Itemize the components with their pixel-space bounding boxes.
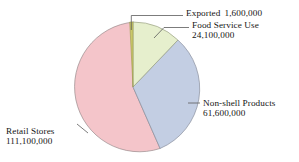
slice-label-exported-name: Exported: [186, 8, 220, 18]
slice-label-exported: Exported1,600,000: [186, 8, 262, 18]
slice-label-non-shell-value: 61,600,000: [203, 108, 276, 118]
slice-label-food-service-use: Food Service Use 24,100,000: [192, 20, 259, 41]
slice-label-food-service-name: Food Service Use: [192, 20, 259, 30]
slice-label-retail-name: Retail Stores: [6, 126, 55, 136]
slice-label-non-shell-name: Non-shell Products: [203, 98, 276, 108]
leader-line-retail-stores: [77, 124, 88, 133]
slice-label-food-service-value: 24,100,000: [192, 30, 259, 40]
slice-label-non-shell-products: Non-shell Products 61,600,000: [203, 98, 276, 119]
slice-label-exported-value: 1,600,000: [220, 8, 262, 18]
pie-chart-figure: Exported1,600,000 Food Service Use 24,10…: [0, 0, 299, 162]
slice-label-retail-stores: Retail Stores 111,100,000: [6, 126, 55, 147]
slice-label-retail-value: 111,100,000: [6, 136, 55, 146]
